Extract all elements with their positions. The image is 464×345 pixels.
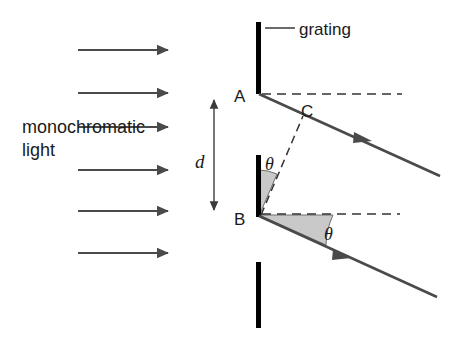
slit-spacing-dimension: d [195, 100, 214, 210]
grating-bar-middle [256, 155, 261, 217]
angle-label-upper-theta: θ [265, 154, 274, 174]
grating-label: grating [299, 20, 351, 39]
grating-bar-bottom [256, 262, 261, 328]
upper-theta-sector [259, 170, 277, 216]
incident-light-arrows [78, 50, 168, 253]
monochromatic-light-label-line2: light [22, 140, 55, 160]
lower-theta-sector [259, 215, 333, 245]
figure-canvas: monochromatic light d [0, 0, 464, 345]
diffracted-ray-a-arrowhead [353, 132, 372, 143]
diffracted-ray-b-arrowhead [332, 249, 351, 260]
diffraction-grating-figure: monochromatic light d [0, 0, 464, 345]
monochromatic-light-label-line1: monochromatic [22, 117, 145, 137]
angle-label-lower-theta: θ [324, 224, 333, 244]
point-label-b: B [234, 210, 245, 229]
grating-bars [256, 22, 261, 328]
reference-dashed-lines [261, 94, 402, 215]
diffracted-rays [259, 94, 440, 297]
point-label-c: C [301, 102, 313, 121]
point-label-a: A [234, 87, 246, 106]
slit-spacing-label: d [195, 151, 205, 172]
grating-callout: grating [265, 20, 351, 39]
grating-bar-top [256, 22, 261, 94]
diffracted-ray-from-a [259, 94, 440, 176]
